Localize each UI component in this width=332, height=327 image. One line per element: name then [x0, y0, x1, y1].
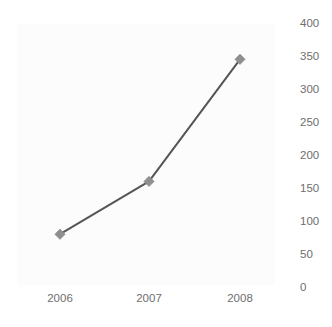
series-line-path [60, 59, 240, 234]
y-axis-tick-text: 350 [300, 50, 328, 62]
x-axis-tick-label: 2008 [227, 292, 253, 305]
y-axis-tick-label: 100 [300, 215, 328, 227]
y-axis-tick-label: 350 [300, 50, 328, 62]
x-axis-tick-label: 2007 [136, 292, 162, 305]
y-axis-tick-text: 50 [300, 248, 328, 260]
line-chart: 400350300250200150100500 200620072008 [0, 0, 332, 327]
y-axis-tick-text: 200 [300, 149, 328, 161]
y-axis-tick-text: 0 [300, 281, 328, 293]
chart-canvas [0, 0, 332, 327]
y-axis-tick-label: 300 [300, 83, 328, 95]
y-axis-tick-text: 100 [300, 215, 328, 227]
y-axis-tick-label: 200 [300, 149, 328, 161]
y-axis-tick-label: 400 [300, 17, 328, 29]
x-axis-tick-label: 2006 [47, 292, 73, 305]
y-axis-tick-label: 0 [300, 281, 328, 293]
y-axis-tick-text: 300 [300, 83, 328, 95]
y-axis-tick-label: 150 [300, 182, 328, 194]
y-axis-tick-label: 50 [300, 248, 328, 260]
y-axis-tick-text: 400 [300, 17, 328, 29]
y-axis-tick-text: 150 [300, 182, 328, 194]
y-axis-tick-label: 250 [300, 116, 328, 128]
series-markers [55, 54, 245, 239]
y-axis-tick-text: 250 [300, 116, 328, 128]
data-point-marker [55, 229, 65, 239]
